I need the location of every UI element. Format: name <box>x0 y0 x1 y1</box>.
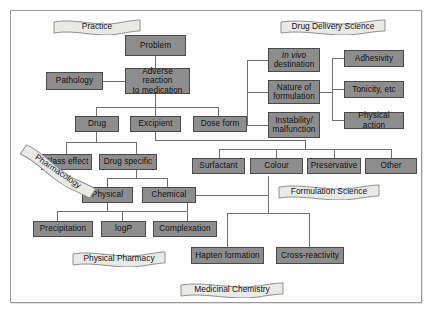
node-label-line2: to medication <box>133 86 183 95</box>
node-nature-of-formulation[interactable]: Nature of formulation <box>268 80 320 104</box>
connector-formulation-science-stem <box>268 176 269 195</box>
node-label-line1: Nature of <box>277 83 312 92</box>
node-label: Physical <box>92 190 123 199</box>
banner-practice: Practice <box>53 18 141 35</box>
connector-to-adhesivity <box>332 58 344 59</box>
connector-problem-adverse <box>155 56 156 68</box>
connector-bus-excip-sub <box>219 149 391 150</box>
node-label: Other <box>381 161 402 170</box>
node-hapten-formation[interactable]: Hapten formation <box>191 247 264 264</box>
connector-to-tonicity <box>332 89 344 90</box>
connector-drop-crossreactivity <box>309 213 310 247</box>
node-other[interactable]: Other <box>365 158 417 174</box>
connector-drop-other <box>391 149 392 158</box>
connector-drugspecific-down <box>136 170 137 178</box>
connector-drop-drug <box>96 107 97 116</box>
connector-drop-hapten <box>227 213 228 247</box>
connector-excipient-down <box>155 132 156 140</box>
diagram-canvas: Practice Drug Delivery Science Pharmacol… <box>0 0 435 320</box>
node-surfactant[interactable]: Surfactant <box>192 158 245 174</box>
node-tonicity-etc[interactable]: Tonicity, etc <box>344 81 404 98</box>
node-label: Pathology <box>56 76 93 85</box>
node-label-line1: In vivo <box>282 51 306 60</box>
connector-drop-drugspecific <box>136 142 137 154</box>
connector-doseform-instability <box>247 125 268 126</box>
node-problem[interactable]: Problem <box>125 35 186 56</box>
connector-adverse-stem <box>155 94 156 107</box>
connector-bus-classeffect <box>66 142 136 143</box>
banner-physical-pharmacy: Physical Pharmacy <box>72 250 166 267</box>
connector-excipient-run <box>155 140 305 141</box>
connector-drop-complexation <box>187 203 188 221</box>
connector-drop-precipitation <box>57 211 58 221</box>
connector-drop-preservative <box>334 149 335 158</box>
connector-drop-excipient <box>155 107 156 116</box>
node-drug[interactable]: Drug <box>75 116 119 132</box>
node-label-line2: destination <box>274 60 315 69</box>
connector-drop-physical <box>107 178 108 187</box>
connector-chemical-right-down <box>268 195 269 213</box>
connector-drop-chemical <box>167 178 168 187</box>
node-label: Excipient <box>138 119 172 128</box>
node-label: Drug <box>88 119 106 128</box>
connector-drop-doseform <box>218 107 219 116</box>
connector-to-physical-action <box>332 120 344 121</box>
banner-medicinal-chemistry: Medicinal Chemistry <box>180 281 284 298</box>
node-adhesivity[interactable]: Adhesivity <box>344 50 404 67</box>
connector-right-invivo <box>247 60 268 61</box>
node-label-line2: formulation <box>273 92 315 101</box>
connector-nature-bus <box>320 92 332 93</box>
connector-drop-colour <box>276 149 277 158</box>
connector-physical-down <box>107 203 108 211</box>
node-in-vivo-destination[interactable]: In vivo destination <box>268 48 320 72</box>
banner-label: Physical Pharmacy <box>83 253 154 264</box>
node-label: Dose form <box>201 119 240 128</box>
node-label: Surfactant <box>199 161 237 170</box>
node-label: Tonicity, etc <box>352 85 395 94</box>
banner-label: Practice <box>82 21 112 32</box>
connector-pathology-adverse <box>103 81 125 82</box>
node-label: Physical action <box>347 111 401 130</box>
banner-label: Formulation Science <box>291 186 367 197</box>
node-label: Precipitation <box>40 224 86 233</box>
node-label: Complexation <box>159 224 210 233</box>
banner-label: Drug Delivery Science <box>292 21 375 32</box>
node-label: Adhesivity <box>355 54 393 63</box>
node-precipitation[interactable]: Precipitation <box>33 221 93 237</box>
node-label: Cross-reactivity <box>281 251 339 260</box>
node-label: Colour <box>264 161 289 170</box>
node-drug-specific[interactable]: Drug specific <box>99 154 157 170</box>
node-chemical[interactable]: Chemical <box>142 187 196 203</box>
node-complexation[interactable]: Complexation <box>153 221 217 237</box>
node-label-prefix: log <box>115 224 126 233</box>
node-label: Preservative <box>311 161 358 170</box>
connector-chemical-right <box>196 195 268 196</box>
node-pathology[interactable]: Pathology <box>46 72 103 90</box>
connector-right-nature <box>247 92 268 93</box>
node-physical-action[interactable]: Physical action <box>344 112 404 129</box>
node-cross-reactivity[interactable]: Cross-reactivity <box>276 247 344 264</box>
node-adverse-reaction[interactable]: Adverse reaction to medication <box>125 68 190 94</box>
node-log-p[interactable]: log P <box>101 221 146 237</box>
banner-formulation-science: Formulation Science <box>278 183 380 200</box>
connector-drop-logp <box>122 211 123 221</box>
node-colour[interactable]: Colour <box>250 158 303 174</box>
node-instability-malfunction[interactable]: Instability/ malfunction <box>268 112 320 138</box>
banner-drug-delivery-science: Drug Delivery Science <box>280 18 386 35</box>
node-dose-form[interactable]: Dose form <box>193 116 247 132</box>
node-label-italic: P <box>126 224 132 233</box>
node-label: Drug specific <box>104 157 153 166</box>
connector-excipient-spine <box>305 140 306 149</box>
node-label: Problem <box>140 41 171 50</box>
node-excipient[interactable]: Excipient <box>130 116 181 132</box>
connector-bus-hapten <box>227 213 309 214</box>
node-label-line1: Instability/ <box>275 116 313 125</box>
node-label-line2: malfunction <box>273 125 316 134</box>
node-preservative[interactable]: Preservative <box>307 158 361 174</box>
connector-bus-physchem <box>107 178 167 179</box>
connector-drop-classeffect <box>66 142 67 154</box>
node-label: Chemical <box>152 190 187 199</box>
connector-drug-down <box>96 132 97 142</box>
connector-bus-row3 <box>96 107 218 108</box>
banner-label: Medicinal Chemistry <box>194 284 269 295</box>
